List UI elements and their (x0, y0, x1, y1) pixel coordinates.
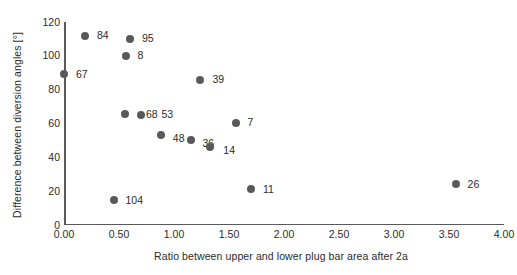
scatter-chart: Difference between diversion angles [°] … (0, 0, 517, 275)
y-tick-label: 100 (32, 50, 60, 61)
data-point-label-53: 53 (162, 109, 174, 120)
y-tick-label: 60 (32, 118, 60, 129)
y-tick-label: 80 (32, 84, 60, 95)
data-point-label-48: 48 (173, 133, 185, 144)
data-point-67[interactable] (60, 70, 68, 78)
x-tick-2.00: 2.00 (264, 228, 304, 240)
y-tick-80: 80 (30, 84, 60, 95)
data-point-label-84: 84 (97, 30, 109, 41)
y-tick-40: 40 (30, 152, 60, 163)
data-point-48[interactable] (157, 131, 165, 139)
data-point-label-104: 104 (126, 195, 144, 206)
data-point-label-67: 67 (76, 69, 88, 80)
x-tick-1.00: 1.00 (154, 228, 194, 240)
x-tick-0.00: 0.00 (44, 228, 84, 240)
y-tick-60: 60 (30, 118, 60, 129)
data-point-36[interactable] (187, 136, 195, 144)
y-tick-120: 120 (30, 17, 60, 28)
x-axis-line (64, 224, 504, 226)
x-tick-3.50: 3.50 (429, 228, 469, 240)
x-tick-3.00: 3.00 (374, 228, 414, 240)
data-point-7[interactable] (232, 119, 240, 127)
data-point-label-7: 7 (248, 117, 254, 128)
x-tick-0.50: 0.50 (99, 228, 139, 240)
data-point-label-14: 14 (223, 145, 235, 156)
x-tick-2.50: 2.50 (319, 228, 359, 240)
data-point-11[interactable] (247, 185, 255, 193)
data-point-label-39: 39 (212, 74, 224, 85)
data-point-104[interactable] (110, 196, 118, 204)
y-tick-20: 20 (30, 186, 60, 197)
data-point-53[interactable] (121, 110, 129, 118)
y-axis-line (64, 22, 66, 225)
y-tick-100: 100 (30, 50, 60, 61)
y-tick-label: 40 (32, 152, 60, 163)
data-point-label-26: 26 (468, 179, 480, 190)
y-tick-label: 120 (32, 17, 60, 28)
x-axis-label: Ratio between upper and lower plug bar a… (55, 250, 507, 262)
plot-area: 020406080100120 0.000.501.001.502.002.50… (64, 22, 504, 225)
data-point-39[interactable] (196, 76, 204, 84)
data-point-84[interactable] (81, 32, 89, 40)
data-point-label-95: 95 (142, 33, 154, 44)
data-point-label-8: 8 (138, 50, 144, 61)
data-point-label-68: 68 (146, 109, 158, 120)
y-axis-label: Difference between diversion angles [°] (6, 10, 28, 240)
data-point-label-11: 11 (263, 184, 274, 195)
data-point-14[interactable] (206, 143, 214, 151)
x-tick-1.50: 1.50 (209, 228, 249, 240)
data-point-8[interactable] (122, 52, 130, 60)
x-tick-4.00: 4.00 (484, 228, 517, 240)
data-point-26[interactable] (452, 180, 460, 188)
data-point-95[interactable] (126, 35, 134, 43)
y-tick-label: 20 (32, 186, 60, 197)
data-point-68[interactable] (137, 111, 145, 119)
